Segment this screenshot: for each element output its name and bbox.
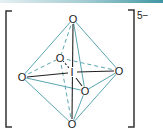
edge-left-front — [22, 77, 85, 91]
atom-left-oxygen: O — [18, 71, 27, 83]
atom-right-oxygen: O — [115, 65, 124, 77]
atom-top-oxygen: O — [69, 13, 78, 25]
right-bracket — [128, 10, 134, 127]
ion-charge: 5− — [137, 10, 149, 21]
left-bracket — [6, 11, 12, 127]
bond-center-right — [77, 71, 114, 72]
edge-top-left — [22, 19, 73, 77]
bond-center-left — [27, 73, 68, 77]
atom-back-oxygen: O — [56, 52, 65, 64]
atom-center-iodine: I — [70, 66, 73, 78]
atom-front-oxygen: O — [81, 85, 90, 97]
periodate-ion-diagram: O O O O O O I 5− — [0, 0, 163, 138]
edge-back-right — [60, 58, 119, 71]
edge-bottom-left — [22, 77, 72, 124]
atom-bottom-oxygen: O — [68, 118, 77, 130]
edge-bottom-right — [72, 71, 119, 124]
